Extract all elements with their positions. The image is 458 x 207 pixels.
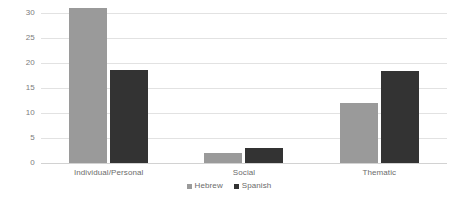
y-axis-tick-label: 10 [9, 109, 35, 117]
category-label: Individual/Personal [41, 168, 176, 177]
legend-swatch-icon [187, 184, 192, 189]
y-axis-tick-label: 0 [9, 159, 35, 167]
y-axis-tick-label: 30 [9, 9, 35, 17]
category-label: Social [176, 168, 311, 177]
bar-group [312, 13, 447, 163]
bar-spanish[interactable] [110, 70, 148, 164]
bar-chart: HebrewSpanish 051015202530Individual/Per… [0, 0, 458, 207]
bar-hebrew[interactable] [69, 8, 107, 163]
legend-swatch-icon [234, 184, 239, 189]
legend-item-hebrew[interactable]: Hebrew [187, 182, 223, 190]
bar-hebrew[interactable] [204, 153, 242, 163]
y-axis-tick-label: 5 [9, 134, 35, 142]
bar-hebrew[interactable] [340, 103, 378, 163]
bar-group [176, 13, 311, 163]
category-label: Thematic [312, 168, 447, 177]
legend-label: Hebrew [195, 182, 223, 190]
y-axis-tick-label: 20 [9, 59, 35, 67]
y-axis-tick-label: 15 [9, 84, 35, 92]
bar-group [41, 13, 176, 163]
bar-spanish[interactable] [381, 71, 419, 164]
bar-spanish[interactable] [245, 148, 283, 163]
y-axis-tick-label: 25 [9, 34, 35, 42]
gridline-0 [41, 163, 447, 164]
legend-label: Spanish [242, 182, 272, 190]
legend-item-spanish[interactable]: Spanish [234, 182, 272, 190]
bars-layer [41, 13, 447, 163]
chart-legend: HebrewSpanish [0, 182, 458, 190]
